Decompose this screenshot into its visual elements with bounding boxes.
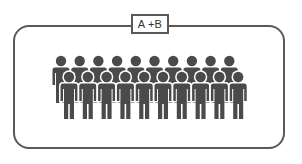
- crowd-of-people: [0, 0, 302, 164]
